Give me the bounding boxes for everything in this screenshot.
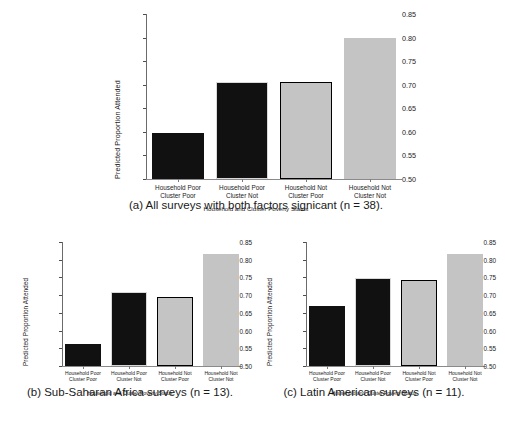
bar <box>447 254 483 366</box>
x-category-line: Cluster Not <box>421 376 505 382</box>
y-tick-mark <box>303 331 306 332</box>
x-tick-mark <box>221 366 222 369</box>
y-tick-mark <box>303 277 306 278</box>
x-tick-mark <box>83 366 84 369</box>
y-tick-mark <box>143 108 146 109</box>
y-tick-mark <box>143 155 146 156</box>
bar <box>157 297 193 366</box>
chart-panel-a: 0.850.800.750.700.650.600.550.50Predicte… <box>96 4 416 229</box>
y-axis-line <box>146 14 147 179</box>
y-tick-label: 0.85 <box>372 10 416 19</box>
bar <box>309 306 345 366</box>
caption-a: (a) All surveys with both factors signic… <box>96 199 416 211</box>
x-tick-mark <box>327 366 328 369</box>
chart-panel-b: 0.850.800.750.700.650.600.550.50Predicte… <box>8 236 252 418</box>
bar <box>355 278 391 366</box>
y-tick-label: 0.85 <box>448 239 496 246</box>
y-tick-mark <box>59 313 62 314</box>
x-tick-mark <box>175 366 176 369</box>
plot-area-c: 0.850.800.750.700.650.600.550.50Predicte… <box>252 236 496 406</box>
y-tick-mark <box>303 366 306 367</box>
x-category-label: Household NotCluster Not <box>421 370 505 383</box>
x-category-line: Household Not <box>326 184 414 192</box>
y-tick-mark <box>59 277 62 278</box>
y-tick-mark <box>303 260 306 261</box>
bar <box>280 82 332 179</box>
bar <box>203 254 239 366</box>
y-axis-line <box>62 242 63 366</box>
y-tick-mark <box>59 331 62 332</box>
y-tick-mark <box>143 61 146 62</box>
bar <box>401 280 437 366</box>
y-tick-mark <box>303 313 306 314</box>
x-tick-mark <box>465 366 466 369</box>
y-tick-mark <box>303 295 306 296</box>
plot-area-a: 0.850.800.750.700.650.600.550.50Predicte… <box>96 4 416 219</box>
y-tick-mark <box>143 85 146 86</box>
y-tick-mark <box>303 348 306 349</box>
y-tick-mark <box>143 38 146 39</box>
y-tick-mark <box>303 242 306 243</box>
y-tick-mark <box>143 179 146 180</box>
x-category-label: Household NotCluster Not <box>326 184 414 200</box>
chart-panel-c: 0.850.800.750.700.650.600.550.50Predicte… <box>252 236 496 418</box>
x-tick-mark <box>242 179 243 182</box>
y-tick-mark <box>59 242 62 243</box>
x-tick-mark <box>373 366 374 369</box>
y-tick-mark <box>59 348 62 349</box>
y-tick-mark <box>59 260 62 261</box>
x-tick-mark <box>178 179 179 182</box>
y-axis-line <box>306 242 307 366</box>
y-axis-title: Predicted Proportion Attended <box>113 80 122 179</box>
bar <box>65 344 101 366</box>
y-tick-mark <box>143 14 146 15</box>
caption-c: (c) Latin American surveys (n = 11). <box>252 386 496 398</box>
bar <box>216 82 268 179</box>
x-tick-mark <box>306 179 307 182</box>
plot-area-b: 0.850.800.750.700.650.600.550.50Predicte… <box>8 236 252 406</box>
bar <box>152 133 204 179</box>
x-tick-mark <box>419 366 420 369</box>
bar <box>111 292 147 366</box>
x-axis-line <box>146 179 402 180</box>
bar <box>344 38 396 179</box>
y-tick-label: 0.85 <box>204 239 252 246</box>
caption-b: (b) Sub-Saharan Africa surveys (n = 13). <box>8 386 252 398</box>
x-tick-mark <box>370 179 371 182</box>
y-tick-mark <box>59 295 62 296</box>
y-tick-mark <box>59 366 62 367</box>
y-tick-mark <box>143 132 146 133</box>
y-axis-title: Predicted Proportion Attended <box>22 278 29 366</box>
x-tick-mark <box>129 366 130 369</box>
y-axis-title: Predicted Proportion Attended <box>266 278 273 366</box>
